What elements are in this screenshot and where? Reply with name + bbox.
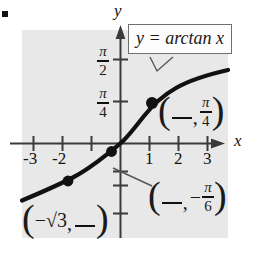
y-tick-label-pi-over-2: π 2 <box>97 44 109 78</box>
open-paren: ( <box>158 96 171 126</box>
open-paren: ( <box>22 204 35 234</box>
data-point-neg-sqrt3 <box>63 176 74 187</box>
y-tick-pi2-numerator: π <box>97 44 109 59</box>
annotation-point-pi-over-4: ( , π 4 ) <box>158 95 224 129</box>
y-tick-pi4-numerator: π <box>97 86 109 101</box>
negative-sign: − <box>190 187 201 207</box>
x-tick-label-3: 3 <box>203 150 212 167</box>
y-axis-label: y <box>114 2 122 19</box>
close-paren: ) <box>96 204 109 234</box>
annotation-leader-line-lower <box>113 168 152 186</box>
function-callout-box: y = arctan x <box>128 24 232 54</box>
annotation-point-neg-pi-over-6: ( , − π 6 ) <box>148 180 227 214</box>
annotation-point-neg-sqrt3: ( −√3 , ) <box>22 205 109 235</box>
y-axis <box>116 25 126 238</box>
callout-leader-line <box>150 57 173 71</box>
function-callout-text: y = arctan x <box>136 28 224 48</box>
annot-pi4-denominator: 4 <box>200 114 212 129</box>
sqrt-three-text: −√3 <box>35 210 67 230</box>
y-value-blank <box>75 212 95 227</box>
x-tick-label-2: 2 <box>174 150 183 167</box>
coordinate-comma: , <box>183 192 188 212</box>
neg-sqrt-three-value: −√3 <box>35 210 67 230</box>
close-paren: ) <box>212 96 225 126</box>
x-tick-label-1: 1 <box>145 150 154 167</box>
x-tick-label-neg2: -2 <box>52 150 66 167</box>
annot-pi6-denominator: 6 <box>202 199 214 214</box>
x-value-blank <box>172 104 192 119</box>
x-tick-label-neg3: -3 <box>23 150 37 167</box>
data-point-pi-over-4 <box>146 97 158 109</box>
coordinate-comma: , <box>67 213 72 233</box>
y-tick-pi2-denominator: 2 <box>97 63 109 78</box>
y-tick-pi4-denominator: 4 <box>97 105 109 120</box>
close-paren: ) <box>214 181 227 211</box>
x-axis-label: x <box>234 132 242 149</box>
open-paren: ( <box>148 181 161 211</box>
y-tick-label-pi-over-4: π 4 <box>97 86 109 120</box>
coordinate-comma: , <box>193 107 198 127</box>
arctan-graph-figure: y x -3 -2 1 2 3 π 2 π 4 y = arctan x ( ,… <box>0 0 265 258</box>
data-point-neg-pi-over-6 <box>106 146 117 157</box>
annot-pi4-numerator: π <box>200 95 212 110</box>
x-value-blank <box>162 189 182 204</box>
annot-pi6-numerator: π <box>202 180 214 195</box>
